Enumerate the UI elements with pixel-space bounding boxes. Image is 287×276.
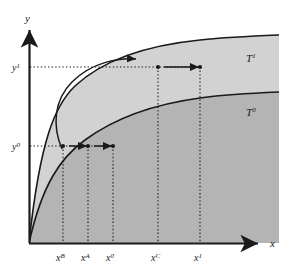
point-xB-on-T1 — [61, 144, 65, 148]
y-tick-label-y1: y1 — [11, 62, 20, 74]
shaded-regions — [29, 35, 279, 243]
point-x0-on-T0 — [111, 144, 115, 148]
x-tick-label-x0: x0 — [105, 252, 114, 264]
diagram-canvas: y x y1 y0 xB xA x0 xC x1 T1 T0 — [0, 0, 287, 276]
production-function-figure: y x y1 y0 xB xA x0 xC x1 T1 T0 — [0, 0, 287, 276]
point-xA-on-T0 — [86, 144, 90, 148]
x-axis-label: x — [269, 237, 275, 249]
x-tick-label-xB: xB — [55, 252, 65, 264]
point-xC-on-T1 — [156, 65, 160, 69]
x-tick-label-x1: x1 — [193, 252, 202, 264]
x-tick-label-xA: xA — [80, 252, 90, 264]
point-x1-on-T1 — [198, 65, 202, 69]
x-tick-label-xC: xC — [150, 252, 160, 264]
y-tick-label-y0: y0 — [11, 141, 20, 153]
y-axis-label: y — [24, 12, 30, 24]
